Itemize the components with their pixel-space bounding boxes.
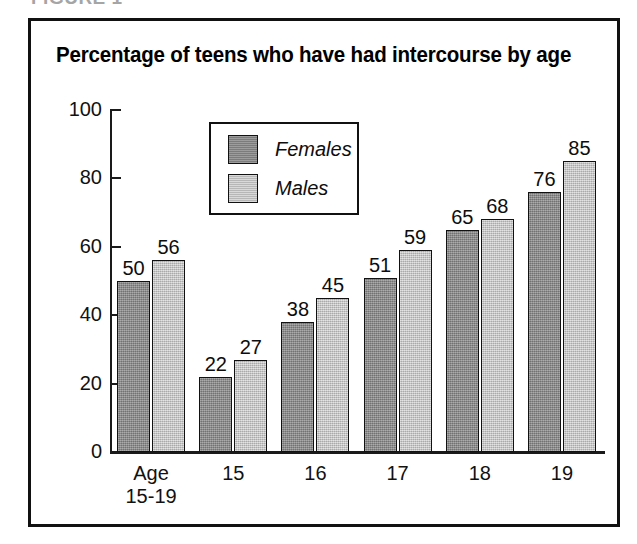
bar-females-15[interactable]: 22	[199, 377, 232, 452]
bar-value-label: 51	[369, 255, 391, 275]
x-axis-tick-label: 19	[502, 462, 622, 485]
bar-value-label: 45	[322, 275, 344, 295]
bar-group: 6568	[446, 110, 514, 452]
y-axis-tick-label: 100	[69, 99, 102, 119]
y-axis-tick-label: 80	[80, 167, 102, 187]
bar-group: 7685	[528, 110, 596, 452]
bar-value-label: 68	[486, 196, 508, 216]
y-axis-tick-label: 0	[91, 441, 102, 461]
bar-value-label: 38	[287, 299, 309, 319]
bar-value-label: 59	[404, 227, 426, 247]
bar-males-16[interactable]: 45	[316, 298, 349, 452]
bar-value-label: 56	[157, 237, 179, 257]
bar-group: 5159	[364, 110, 432, 452]
bar-males-15[interactable]: 27	[234, 360, 267, 452]
bar-females-Age-15-19[interactable]: 50	[117, 281, 150, 452]
bar-females-16[interactable]: 38	[281, 322, 314, 452]
y-axis-tick-label: 60	[80, 236, 102, 256]
bar-males-17[interactable]: 59	[399, 250, 432, 452]
bar-group: 5056	[117, 110, 185, 452]
bar-group: 3845	[281, 110, 349, 452]
plot-area: 505622273845515965687685	[110, 110, 603, 452]
bar-males-19[interactable]: 85	[563, 161, 596, 452]
bar-males-Age-15-19[interactable]: 56	[152, 260, 185, 452]
bar-females-17[interactable]: 51	[364, 278, 397, 452]
y-axis-tick-label: 20	[80, 373, 102, 393]
bar-value-label: 65	[451, 207, 473, 227]
bar-value-label: 85	[568, 138, 590, 158]
chart-title: Percentage of teens who have had interco…	[56, 43, 571, 68]
bar-value-label: 50	[122, 258, 144, 278]
bar-females-19[interactable]: 76	[528, 192, 561, 452]
bar-value-label: 76	[533, 169, 555, 189]
bar-value-label: 22	[205, 354, 227, 374]
bar-males-18[interactable]: 68	[481, 219, 514, 452]
bar-group: 2227	[199, 110, 267, 452]
bar-females-18[interactable]: 65	[446, 230, 479, 452]
bar-value-label: 27	[240, 337, 262, 357]
y-axis-tick-label: 40	[80, 304, 102, 324]
